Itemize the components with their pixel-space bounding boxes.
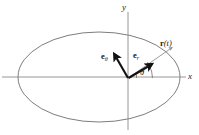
y-axis-label: y	[122, 3, 126, 12]
r-of-t-label-argument: (t)	[164, 38, 172, 48]
angle-theta-arc	[149, 65, 153, 79]
e-r-label-subscript: r	[137, 55, 139, 61]
r-of-t-label: r(t)	[160, 39, 172, 48]
e-theta-label: eθ	[101, 52, 108, 62]
x-axis-label: x	[188, 72, 192, 81]
e-theta-label-subscript: θ	[105, 56, 108, 62]
figure-canvas: y x eθ er r(t) θ	[0, 0, 199, 135]
vector-e-theta	[117, 58, 129, 78]
e-r-label: er	[133, 51, 139, 61]
diagram-svg	[0, 0, 199, 135]
vector-e-r	[129, 67, 149, 79]
theta-angle-label: θ	[140, 68, 144, 77]
